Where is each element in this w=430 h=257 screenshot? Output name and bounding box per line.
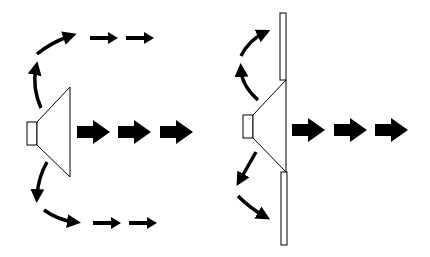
top-wrap-arrows xyxy=(35,32,154,108)
forward-arrows xyxy=(292,118,408,142)
baffle-lower xyxy=(281,172,287,245)
top-blocked-arrows xyxy=(241,33,264,100)
baffle-upper xyxy=(280,13,286,80)
bottom-wrap-arrows xyxy=(37,162,157,229)
magnet xyxy=(243,115,253,138)
speaker-with-baffle xyxy=(238,13,408,245)
diagram-canvas xyxy=(0,0,430,257)
speaker-without-baffle xyxy=(27,32,193,229)
speaker-cone xyxy=(37,87,70,177)
forward-arrows xyxy=(77,120,193,144)
bottom-blocked-arrows xyxy=(238,152,264,216)
magnet xyxy=(27,122,37,145)
speaker-cone xyxy=(253,80,286,172)
